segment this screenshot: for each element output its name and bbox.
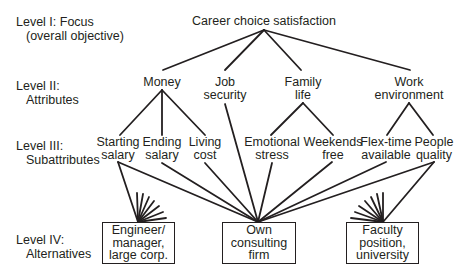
alternative-engineer-manager: Engineer/ manager, large corp. xyxy=(102,222,175,264)
subattribute-weekends-free: Weekends free xyxy=(304,136,363,162)
level-3-title: Level III: xyxy=(16,139,63,153)
edge-work-people-quality xyxy=(409,103,433,135)
subattribute-flex-time: Flex-time available xyxy=(360,136,411,162)
subattribute-starting-salary: Starting salary xyxy=(96,136,139,162)
faculty-fan-stubs xyxy=(351,193,383,222)
attribute-work-environment-line2: environment xyxy=(375,89,444,102)
attribute-money: Money xyxy=(143,76,181,89)
level-3-subtitle: Subattributes xyxy=(16,153,100,167)
subattribute-weekends-free-line2: free xyxy=(304,149,363,162)
subattribute-flex-time-line2: available xyxy=(360,149,411,162)
focus-node: Career choice satisfaction xyxy=(192,15,336,28)
level-1-title: Level I: Focus xyxy=(16,15,94,29)
alternative-own-consulting-firm: Own consulting firm xyxy=(222,222,296,264)
attribute-family-life: Family life xyxy=(285,76,322,102)
alternative-engineer-line3: large corp. xyxy=(109,249,168,262)
level-2-title: Level II: xyxy=(16,79,60,93)
edge-money-starting-salary xyxy=(120,90,162,135)
edge-family-emotional-stress xyxy=(271,103,303,135)
subattribute-emotional-stress-line2: stress xyxy=(244,149,300,162)
level-4-subtitle: Alternatives xyxy=(16,247,91,261)
level-3-label: Level III: Subattributes xyxy=(16,139,100,167)
attribute-job-security-line2: security xyxy=(203,89,246,102)
alternative-faculty-line1: Faculty xyxy=(362,224,402,237)
alternative-faculty-line3: university xyxy=(356,249,409,262)
alternative-faculty-position: Faculty position, university xyxy=(346,222,419,264)
level-4-title: Level IV: xyxy=(16,233,64,247)
subattribute-ending-salary: Ending salary xyxy=(143,136,182,162)
edge-starting-salary-engineer xyxy=(118,162,138,222)
attribute-job-security: Job security xyxy=(203,76,246,102)
subattribute-living-cost-line2: cost xyxy=(189,149,222,162)
edge-focus-money xyxy=(163,30,264,70)
subattribute-people-quality: People quality xyxy=(415,136,454,162)
edge-work-flex-time xyxy=(387,103,409,135)
level-1-label: Level I: Focus (overall objective) xyxy=(16,15,124,43)
edge-focus-job-security xyxy=(225,30,264,70)
edge-family-weekends-free xyxy=(303,103,333,135)
alternative-own-firm-line1: Own xyxy=(246,224,272,237)
attribute-money-line1: Money xyxy=(143,76,181,89)
level-2-subtitle: Attributes xyxy=(16,93,79,107)
attribute-work-environment: Work environment xyxy=(375,76,444,102)
subattribute-living-cost: Living cost xyxy=(189,136,222,162)
edge-money-living-cost xyxy=(162,90,205,135)
level-1-subtitle: (overall objective) xyxy=(16,29,124,43)
alternative-own-firm-line3: firm xyxy=(249,249,270,262)
engineer-fan-stubs xyxy=(137,193,166,222)
subattribute-starting-salary-line2: salary xyxy=(96,149,139,162)
subattribute-ending-salary-line2: salary xyxy=(143,149,182,162)
subattribute-people-quality-line2: quality xyxy=(415,149,454,162)
subattribute-emotional-stress: Emotional stress xyxy=(244,136,300,162)
level-2-label: Level II: Attributes xyxy=(16,79,79,107)
level-4-label: Level IV: Alternatives xyxy=(16,233,91,261)
edge-focus-work-environment xyxy=(264,30,410,70)
attribute-family-life-line2: life xyxy=(285,89,322,102)
alternative-engineer-line1: Engineer/ xyxy=(112,224,166,237)
